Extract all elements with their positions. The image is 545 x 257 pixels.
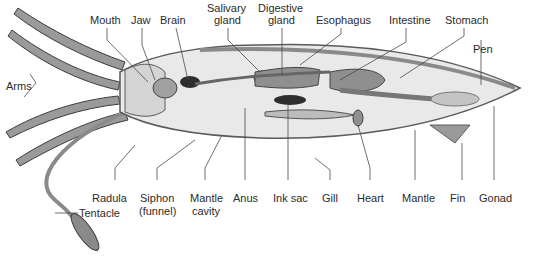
fin-illustration: [430, 125, 470, 143]
label-digestive-gland-line1: Digestive: [258, 2, 303, 14]
label-fin: Fin: [450, 192, 465, 204]
label-ink-sac: Ink sac: [273, 192, 308, 204]
heart-illustration: [353, 110, 363, 126]
digestive-gland-illustration: [255, 67, 320, 88]
label-salivary-gland-line2: gland: [214, 14, 241, 26]
label-intestine: Intestine: [389, 14, 431, 26]
label-digestive-gland-line2: gland: [268, 14, 295, 26]
label-tentacle: Tentacle: [79, 207, 120, 219]
label-siphon-line1: Siphon: [140, 192, 174, 204]
label-arms: Arms: [6, 80, 32, 92]
gonad-illustration: [431, 92, 479, 106]
brain-illustration: [180, 76, 200, 88]
label-jaw: Jaw: [131, 14, 151, 26]
jaw-illustration: [153, 78, 177, 98]
label-salivary-gland-line1: Salivary: [207, 2, 246, 14]
mantle-body: [120, 44, 520, 138]
label-esophagus: Esophagus: [316, 14, 371, 26]
squid-anatomy-diagram: Mouth Jaw Brain Salivary gland Digestive…: [0, 0, 545, 257]
label-heart: Heart: [357, 192, 384, 204]
ink-sac-illustration: [274, 95, 306, 105]
label-gill: Gill: [322, 192, 338, 204]
label-siphon-line2: (funnel): [139, 205, 176, 217]
label-brain: Brain: [160, 14, 186, 26]
label-mantle-cavity-line2: cavity: [192, 205, 220, 217]
label-anus: Anus: [233, 192, 258, 204]
label-stomach: Stomach: [445, 14, 488, 26]
label-gonad: Gonad: [479, 192, 512, 204]
label-mantle: Mantle: [402, 192, 435, 204]
label-radula: Radula: [92, 192, 127, 204]
label-pen: Pen: [473, 43, 493, 55]
label-mantle-cavity-line1: Mantle: [190, 192, 223, 204]
label-mouth: Mouth: [90, 14, 121, 26]
